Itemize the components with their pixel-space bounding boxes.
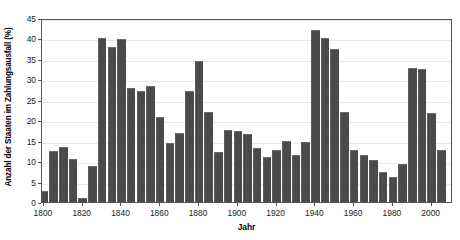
y-tick-label: 5	[0, 179, 36, 187]
y-tick-label: 35	[0, 56, 36, 64]
x-tick-mark	[159, 203, 160, 206]
bar	[243, 134, 251, 202]
bar	[59, 147, 67, 202]
x-tick-label: 1900	[217, 208, 257, 218]
y-tick-mark	[38, 101, 41, 102]
y-tick-mark	[38, 142, 41, 143]
y-tick-mark	[38, 162, 41, 163]
bar	[98, 38, 106, 202]
bar	[185, 91, 193, 202]
y-tick-mark	[38, 121, 41, 122]
bar	[350, 150, 358, 202]
x-tick-label: 1880	[178, 208, 218, 218]
y-tick-mark	[38, 80, 41, 81]
x-tick-mark	[276, 203, 277, 206]
bar	[360, 155, 368, 202]
y-tick-label: 25	[0, 97, 36, 105]
bar	[272, 150, 280, 202]
bar	[214, 152, 222, 202]
bar	[224, 130, 232, 202]
x-tick-label: 1840	[100, 208, 140, 218]
bar	[204, 112, 212, 202]
y-tick-mark	[38, 60, 41, 61]
bar	[137, 91, 145, 202]
plot-area	[41, 19, 452, 203]
x-tick-mark	[82, 203, 83, 206]
bar	[234, 131, 242, 202]
bar	[282, 141, 290, 202]
bar	[330, 49, 338, 202]
bar	[156, 117, 164, 202]
bar	[263, 157, 271, 202]
x-tick-mark	[43, 203, 44, 206]
bar	[49, 151, 57, 202]
bar	[398, 164, 406, 202]
x-tick-label: 1940	[294, 208, 334, 218]
bar	[175, 133, 183, 203]
bar	[127, 88, 135, 202]
bar	[195, 61, 203, 202]
y-tick-label: 10	[0, 158, 36, 166]
x-tick-mark	[392, 203, 393, 206]
x-axis-title: Jahr	[41, 222, 452, 232]
x-tick-label: 1980	[372, 208, 412, 218]
x-tick-mark	[353, 203, 354, 206]
bar	[389, 177, 397, 202]
bar	[78, 198, 86, 202]
y-tick-label: 30	[0, 76, 36, 84]
y-tick-mark	[38, 39, 41, 40]
bar	[301, 142, 309, 203]
bar	[88, 166, 96, 202]
x-tick-mark	[314, 203, 315, 206]
bar	[292, 155, 300, 202]
bar	[437, 150, 445, 202]
bar	[340, 112, 348, 202]
x-tick-label: 1920	[256, 208, 296, 218]
x-tick-label: 1860	[139, 208, 179, 218]
bar	[253, 148, 261, 202]
y-tick-label: 45	[0, 15, 36, 23]
y-tick-label: 15	[0, 138, 36, 146]
bar	[418, 69, 426, 202]
y-tick-mark	[38, 183, 41, 184]
bar	[408, 68, 416, 202]
bar	[369, 160, 377, 202]
y-tick-label: 40	[0, 35, 36, 43]
x-tick-label: 2000	[411, 208, 451, 218]
x-tick-label: 1960	[333, 208, 373, 218]
bar	[166, 143, 174, 202]
bar	[379, 172, 387, 202]
x-tick-mark	[198, 203, 199, 206]
x-tick-label: 1820	[62, 208, 102, 218]
y-tick-mark	[38, 19, 41, 20]
bar	[321, 38, 329, 202]
bar	[117, 39, 125, 202]
y-tick-mark	[38, 203, 41, 204]
x-tick-mark	[431, 203, 432, 206]
bar	[69, 159, 77, 202]
bar	[108, 47, 116, 202]
bar-chart: Anzahl der Staaten im Zahlungsausfall (%…	[0, 0, 460, 240]
x-tick-mark	[237, 203, 238, 206]
bar	[146, 86, 154, 202]
bar	[427, 113, 435, 202]
bars-group	[42, 20, 451, 202]
y-tick-label: 0	[0, 199, 36, 207]
bar	[311, 30, 319, 202]
bar	[42, 191, 48, 202]
x-tick-mark	[120, 203, 121, 206]
y-tick-label: 20	[0, 117, 36, 125]
x-tick-label: 1800	[23, 208, 63, 218]
